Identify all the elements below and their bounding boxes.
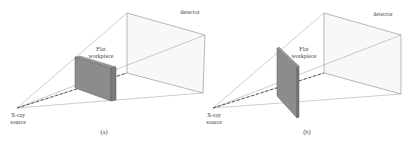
detector-plane xyxy=(324,13,401,94)
workpiece-label-line1: Flat xyxy=(299,46,309,52)
caption-a: (a) xyxy=(100,128,107,136)
detector-label: detector xyxy=(180,9,199,15)
workpiece-label-line2: workpiece xyxy=(89,53,114,59)
panel-b: detector Flat workpiece X-ray source (b) xyxy=(206,11,401,136)
detector-label: detector xyxy=(373,11,392,17)
workpiece-label-line2: workpiece xyxy=(292,53,317,59)
workpiece-label-line1: Flat xyxy=(96,46,106,52)
xray-setup-figure: detector Flat workpiece X-ray source (a) xyxy=(0,0,413,148)
caption-b: (b) xyxy=(303,128,311,136)
workpiece xyxy=(75,56,116,101)
source-label-line2: source xyxy=(206,119,222,125)
source-label-line1: X-ray xyxy=(207,112,221,118)
panel-a: detector Flat workpiece X-ray source (a) xyxy=(10,9,205,136)
source-label-line2: source xyxy=(10,119,26,125)
detector-plane xyxy=(127,13,205,93)
source-label-line1: X-ray xyxy=(11,112,25,118)
